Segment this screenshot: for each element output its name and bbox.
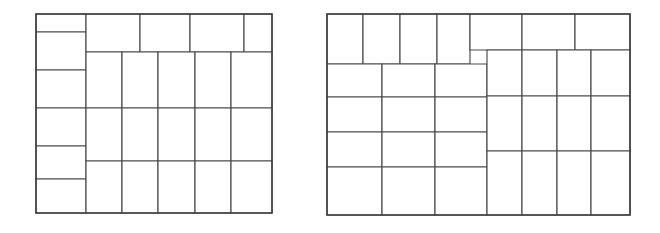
packed-rectangle [487, 151, 522, 215]
packed-rectangle [327, 97, 382, 132]
packed-rectangle [470, 14, 522, 50]
packed-rectangle [140, 14, 190, 52]
packed-rectangle [435, 132, 487, 167]
packed-rectangle [382, 132, 435, 167]
packed-rectangle [522, 50, 557, 96]
packed-rectangle [557, 96, 591, 151]
packed-rectangle [591, 96, 630, 151]
packed-rectangle [400, 14, 437, 64]
packed-rectangle [86, 14, 140, 52]
right-packing-panel [327, 14, 630, 215]
packed-rectangle [327, 64, 382, 97]
packed-rectangle [382, 64, 435, 97]
packed-rectangle [435, 167, 487, 215]
packed-rectangle [195, 108, 231, 161]
packed-rectangle [487, 50, 522, 96]
packed-rectangle [382, 97, 435, 132]
packed-rectangle [557, 151, 591, 215]
packed-rectangle [382, 167, 435, 215]
packed-rectangle [244, 14, 272, 52]
packed-rectangle [122, 52, 158, 108]
packed-rectangle [86, 108, 122, 161]
packed-rectangle [231, 52, 272, 108]
packed-rectangle [487, 96, 522, 151]
packed-rectangle [36, 32, 86, 70]
packed-rectangle [195, 52, 231, 108]
packed-rectangle [36, 70, 86, 108]
packed-rectangle [575, 14, 630, 50]
packed-rectangle [36, 179, 86, 213]
packed-rectangle [522, 14, 575, 50]
packed-rectangle [557, 50, 591, 96]
packed-rectangle [122, 161, 158, 213]
rectangle-packing-diagram [0, 0, 660, 233]
packed-rectangle [522, 151, 557, 215]
packed-rectangle [36, 108, 86, 146]
packed-rectangle [190, 14, 244, 52]
packed-rectangle [522, 96, 557, 151]
packed-rectangle [158, 52, 195, 108]
left-packing-panel [36, 14, 272, 213]
packed-rectangle [231, 108, 272, 161]
packed-rectangle [122, 108, 158, 161]
packed-rectangle [435, 64, 487, 97]
packed-rectangle [158, 108, 195, 161]
packed-rectangle [435, 97, 487, 132]
packed-rectangle [231, 161, 272, 213]
packed-rectangle [327, 14, 363, 64]
packed-rectangle [363, 14, 400, 64]
packed-rectangle [195, 161, 231, 213]
packed-rectangle [437, 14, 470, 64]
packed-rectangle [36, 14, 86, 32]
packed-rectangle [36, 146, 86, 179]
figure-root [0, 0, 660, 233]
packed-rectangle [327, 132, 382, 167]
packed-rectangle [86, 161, 122, 213]
packed-rectangle [158, 161, 195, 213]
packed-rectangle [327, 167, 382, 215]
packed-rectangle [591, 151, 630, 215]
packed-rectangle [591, 50, 630, 96]
packed-rectangle [86, 52, 122, 108]
